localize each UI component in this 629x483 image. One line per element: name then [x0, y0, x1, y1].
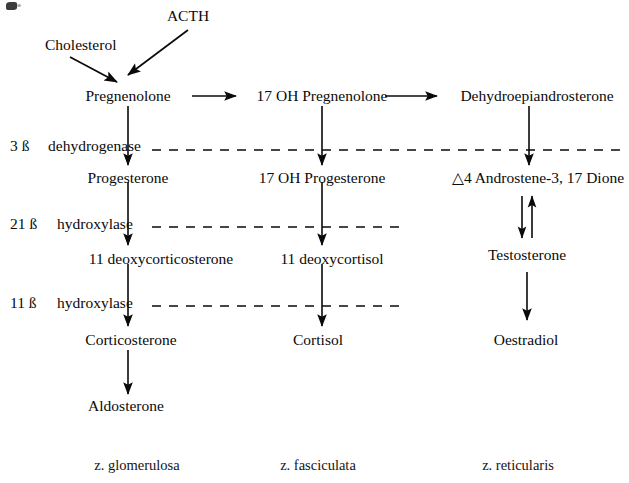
node-deoxycortisol: 11 deoxycortisol [280, 251, 383, 267]
node-aldosterone: Aldosterone [88, 398, 164, 414]
node-cortisol: Cortisol [293, 332, 343, 348]
node-17oh-progesterone: 17 OH Progesterone [259, 170, 386, 186]
enzyme-number-21b: 21 ß [10, 215, 37, 233]
zone-label-glomerulosa: z. glomerulosa [94, 457, 179, 474]
zone-label-reticularis: z. reticularis [482, 457, 554, 474]
node-deoxycorticosterone: 11 deoxycorticosterone [89, 251, 233, 267]
node-acth: ACTH [167, 8, 209, 24]
enzyme-number-11b: 11 ß [10, 294, 37, 312]
node-corticosterone: Corticosterone [85, 332, 176, 348]
arrow-acth-to-pregnenolone [128, 30, 188, 75]
node-androstenedione: △4 Androstene-3, 17 Dione [452, 170, 624, 186]
enzyme-name-hydroxylase-11b: hydroxylase [57, 294, 133, 312]
arrow-cholesterol-to-pregnenolone [70, 57, 117, 82]
node-dehydroepiandrosterone: Dehydroepiandrosterone [460, 88, 613, 104]
node-17oh-pregnenolone: 17 OH Pregnenolone [257, 88, 388, 104]
node-testosterone: Testosterone [488, 247, 566, 263]
enzyme-number-3b: 3 ß [10, 137, 29, 155]
zone-label-fasciculata: z. fasciculata [280, 457, 356, 474]
scan-artifact-speck [17, 4, 21, 7]
node-pregnenolone: Pregnenolone [85, 88, 170, 104]
enzyme-name-hydroxylase-21b: hydroxylase [57, 215, 133, 233]
node-progesterone: Progesterone [88, 170, 169, 186]
scan-artifact [6, 2, 17, 10]
steroidogenesis-diagram: ACTH Cholesterol Pregnenolone 17 OH Preg… [0, 0, 629, 483]
node-oestradiol: Oestradiol [494, 332, 559, 348]
node-cholesterol: Cholesterol [45, 37, 116, 53]
enzyme-name-dehydrogenase: dehydrogenase [48, 137, 141, 155]
